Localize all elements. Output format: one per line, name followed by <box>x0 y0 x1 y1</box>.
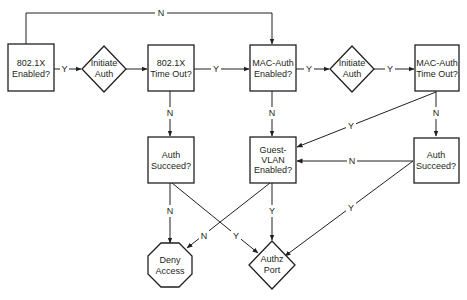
node-deny-access: Deny Access <box>148 243 192 287</box>
edge-label-yes: Y <box>213 64 219 74</box>
edge-label-yes: Y <box>306 64 312 74</box>
edge-guest-vlan-yes: Y <box>267 183 277 240</box>
node-authz-port: Authz Port <box>249 241 295 289</box>
edge-label-yes: Y <box>348 203 354 213</box>
edge-auth-succeed-2-yes: Y <box>285 161 413 256</box>
edge-label-yes: Y <box>387 64 393 74</box>
edge-label-no: N <box>167 108 174 118</box>
svg-text:Auth: Auth <box>95 69 114 79</box>
edge-dot1x-timeout-no: N <box>165 91 175 136</box>
node-mac-auth-timeout: MAC-Auth Time Out? <box>415 45 459 91</box>
svg-text:Enabled?: Enabled? <box>254 165 292 175</box>
node-auth-succeed-1: Auth Succeed? <box>148 137 194 183</box>
edge-mac-auth-timeout-no: N <box>431 91 441 136</box>
svg-text:Access: Access <box>155 266 185 276</box>
edge-label-no: N <box>349 156 356 166</box>
svg-text:Time Out?: Time Out? <box>150 69 192 79</box>
svg-text:Succeed?: Succeed? <box>151 161 191 171</box>
node-dot1x-timeout: 802.1X Time Out? <box>148 45 194 91</box>
edge-mac-auth-enabled-yes: Y <box>296 63 329 75</box>
svg-text:Auth: Auth <box>427 150 446 160</box>
svg-text:Authz: Authz <box>260 254 284 264</box>
edge-label-yes: Y <box>233 231 239 241</box>
svg-text:Succeed?: Succeed? <box>416 161 456 171</box>
edge-label-no: N <box>269 108 276 118</box>
svg-text:Enabled?: Enabled? <box>12 69 50 79</box>
node-initiate-auth-2: Initiate Auth <box>330 46 374 92</box>
edge-label-no: N <box>201 231 208 241</box>
edge-initiate-auth-2-yes: Y <box>374 63 414 75</box>
svg-text:Port: Port <box>264 265 281 275</box>
svg-text:802.1X: 802.1X <box>157 58 186 68</box>
svg-text:Initiate: Initiate <box>339 58 366 68</box>
edge-label-yes: Y <box>269 206 275 216</box>
node-guest-vlan-enabled: Guest- VLAN Enabled? <box>250 137 296 183</box>
edge-auth-succeed-1-no: N <box>165 183 175 243</box>
svg-text:MAC-Auth: MAC-Auth <box>252 58 294 68</box>
node-dot1x-enabled: 802.1X Enabled? <box>8 44 54 91</box>
svg-text:802.1X: 802.1X <box>17 58 46 68</box>
edge-label-no: N <box>158 8 165 18</box>
svg-text:Enabled?: Enabled? <box>254 69 292 79</box>
node-initiate-auth-1: Initiate Auth <box>82 46 126 92</box>
edge-auth-succeed-2-no: N <box>297 155 413 167</box>
svg-text:Auth: Auth <box>343 69 362 79</box>
edge-label-no: N <box>433 108 440 118</box>
svg-text:Auth: Auth <box>162 150 181 160</box>
edge-mac-auth-enabled-no: N <box>267 91 277 136</box>
svg-text:VLAN: VLAN <box>261 155 285 165</box>
svg-text:Initiate: Initiate <box>91 58 118 68</box>
node-auth-succeed-2: Auth Succeed? <box>414 138 459 183</box>
edge-auth-succeed-1-yes: Y <box>172 183 258 253</box>
svg-text:MAC-Auth: MAC-Auth <box>416 58 458 68</box>
auth-flowchart: N Y Y N Y N Y Y <box>0 0 467 300</box>
edge-dot1x-enabled-no: N <box>26 7 272 44</box>
edge-dot1x-timeout-yes: Y <box>194 63 249 75</box>
edge-label-no: N <box>167 206 174 216</box>
svg-text:Deny: Deny <box>159 255 181 265</box>
edge-guest-vlan-no: N <box>187 183 270 248</box>
edge-dot1x-enabled-yes: Y <box>54 63 81 75</box>
edge-label-yes: Y <box>348 121 354 131</box>
node-mac-auth-enabled: MAC-Auth Enabled? <box>250 45 296 91</box>
edge-label-yes: Y <box>61 64 67 74</box>
svg-text:Time Out?: Time Out? <box>416 69 458 79</box>
svg-text:Guest-: Guest- <box>259 145 286 155</box>
